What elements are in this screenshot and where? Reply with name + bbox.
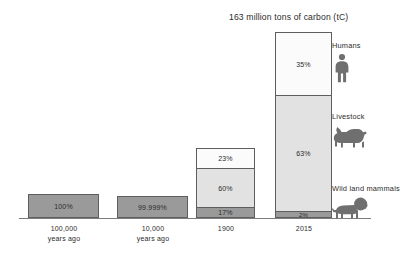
segment-label: 23% xyxy=(218,155,233,162)
human-figure-icon xyxy=(332,53,412,83)
legend-label-livestock: Livestock xyxy=(332,112,412,121)
tick-line-2: years ago xyxy=(113,234,193,244)
tick-line-2: years ago xyxy=(24,234,104,244)
legend-item-livestock: Livestock xyxy=(332,112,412,150)
segment-label: 100% xyxy=(54,203,73,210)
x-tick-label-100000-years-ago: 100,000 years ago xyxy=(24,224,104,244)
legend-item-humans: Humans xyxy=(332,41,412,83)
segment-livestock: 60% xyxy=(196,168,255,208)
segment-label: 17% xyxy=(218,209,233,216)
segment-wild-land-mammals: 100% xyxy=(28,194,99,218)
tick-line-1: 10,000 xyxy=(113,224,193,234)
x-axis-line xyxy=(19,218,371,219)
x-tick-label-2015: 2015 xyxy=(264,224,344,234)
bar-100000-years-ago: 100% xyxy=(28,194,99,218)
lion-icon xyxy=(332,196,412,222)
bar-2015: 35% 63% 2% xyxy=(275,32,332,218)
legend-label-humans: Humans xyxy=(332,41,412,50)
tick-line-1: 100,000 xyxy=(24,224,104,234)
segment-wild-land-mammals: 2% xyxy=(275,211,332,218)
chart-title: 163 million tons of carbon (tC) xyxy=(229,12,348,22)
x-tick-label-1900: 1900 xyxy=(186,224,266,234)
segment-livestock: 63% xyxy=(275,95,332,212)
bar-10000-years-ago: 99.999% xyxy=(117,196,188,218)
segment-wild-land-mammals: 17% xyxy=(196,207,255,218)
segment-label: 99.999% xyxy=(138,204,167,211)
segment-label: 35% xyxy=(296,61,311,68)
tick-line-1: 2015 xyxy=(264,224,344,234)
segment-label: 63% xyxy=(296,150,311,157)
segment-wild-land-mammals: 99.999% xyxy=(117,196,188,218)
segment-label: 2% xyxy=(299,212,308,218)
x-tick-label-10000-years-ago: 10,000 years ago xyxy=(113,224,193,244)
bar-1900: 23% 60% 17% xyxy=(196,148,255,218)
cow-icon xyxy=(332,124,412,150)
carbon-biomass-stacked-bar-chart: 163 million tons of carbon (tC) 100% 99.… xyxy=(0,0,414,262)
legend-item-wild-land-mammals: Wild land mammals xyxy=(332,184,412,222)
segment-humans: 35% xyxy=(275,32,332,96)
legend-label-wild-land-mammals: Wild land mammals xyxy=(332,184,412,193)
segment-humans: 23% xyxy=(196,148,255,169)
tick-line-1: 1900 xyxy=(186,224,266,234)
segment-label: 60% xyxy=(218,185,233,192)
